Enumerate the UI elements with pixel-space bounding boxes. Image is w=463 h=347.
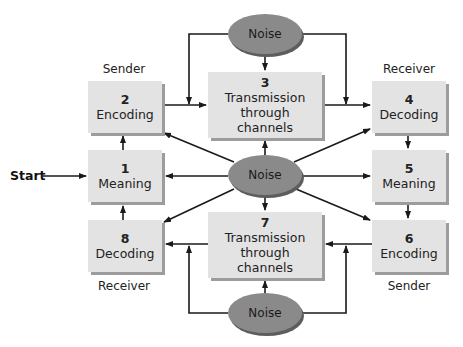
- step-7-transmission: 7 Transmission through channels: [208, 212, 322, 278]
- communication-process-diagram: Start Sender Receiver Receiver Sender 1 …: [0, 0, 463, 347]
- step-number: 1: [121, 161, 130, 176]
- receiver-label-bottom: Receiver: [84, 279, 164, 293]
- step-label: Meaning: [382, 176, 435, 191]
- step-number: 8: [121, 231, 130, 246]
- step-number: 2: [121, 92, 130, 107]
- start-label: Start: [10, 168, 46, 183]
- noise-top: Noise: [228, 14, 302, 54]
- noise-bottom: Noise: [228, 293, 302, 333]
- sender-label-bottom: Sender: [369, 279, 449, 293]
- step-label: Encoding: [380, 246, 438, 261]
- step-number: 5: [405, 161, 414, 176]
- step-3-transmission: 3 Transmission through channels: [208, 72, 322, 138]
- step-5-meaning: 5 Meaning: [372, 150, 446, 202]
- step-2-encoding: 2 Encoding: [88, 81, 162, 133]
- step-label: Encoding: [96, 107, 154, 122]
- step-8-decoding: 8 Decoding: [88, 220, 162, 272]
- step-label: Decoding: [379, 107, 438, 122]
- step-number: 7: [261, 215, 270, 230]
- receiver-label-top: Receiver: [369, 62, 449, 76]
- step-number: 3: [261, 75, 270, 90]
- step-label: Meaning: [98, 176, 151, 191]
- step-6-encoding: 6 Encoding: [372, 220, 446, 272]
- step-label: Transmission through channels: [215, 230, 315, 275]
- sender-label-top: Sender: [84, 62, 164, 76]
- step-number: 4: [405, 92, 414, 107]
- noise-center: Noise: [228, 155, 302, 195]
- step-number: 6: [405, 231, 414, 246]
- step-label: Transmission through channels: [215, 90, 315, 135]
- step-label: Decoding: [95, 246, 154, 261]
- step-4-decoding: 4 Decoding: [372, 81, 446, 133]
- step-1-meaning: 1 Meaning: [88, 150, 162, 202]
